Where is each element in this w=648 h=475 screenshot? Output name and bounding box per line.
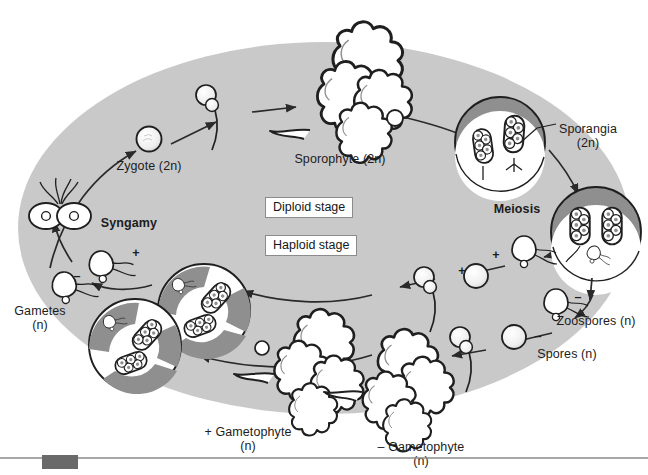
label-plus-gametophyte: + Gametophyte (n) [204,426,291,453]
sign-spore-plus: + [458,265,465,279]
gametangium-minus-inset [89,299,181,394]
label-meiosis: Meiosis [494,203,541,217]
label-gametes: Gametes (n) [14,305,65,332]
label-spores: Spores (n) [537,348,596,362]
label-minus-gametophyte: – Gametophyte (n) [378,441,465,468]
spore-plus [464,264,488,288]
meiosis-inset [551,187,641,295]
label-syngamy: Syngamy [101,217,157,231]
label-sporangia: Sporangia (2n) [559,123,617,150]
label-sporophyte: Sporophyte (2n) [294,153,385,167]
sign-syngamy-minus: – [73,270,80,284]
sporangia-inset [455,97,545,201]
sign-meiosis-minus: – [574,291,581,305]
sign-meiosis-plus: + [492,249,499,263]
spore-minus [502,325,526,349]
label-zygote: Zygote (2n) [116,160,181,174]
figure-canvas: Diploid stage Haploid stage Zygote (2n) … [0,0,648,475]
legend-haploid-stage: Haploid stage [265,235,357,256]
sign-syngamy-plus: + [132,247,139,261]
label-zoospores: Zoospores (n) [556,315,635,329]
sign-spore-minus: – [534,330,541,344]
legend-diploid-stage: Diploid stage [265,197,353,218]
